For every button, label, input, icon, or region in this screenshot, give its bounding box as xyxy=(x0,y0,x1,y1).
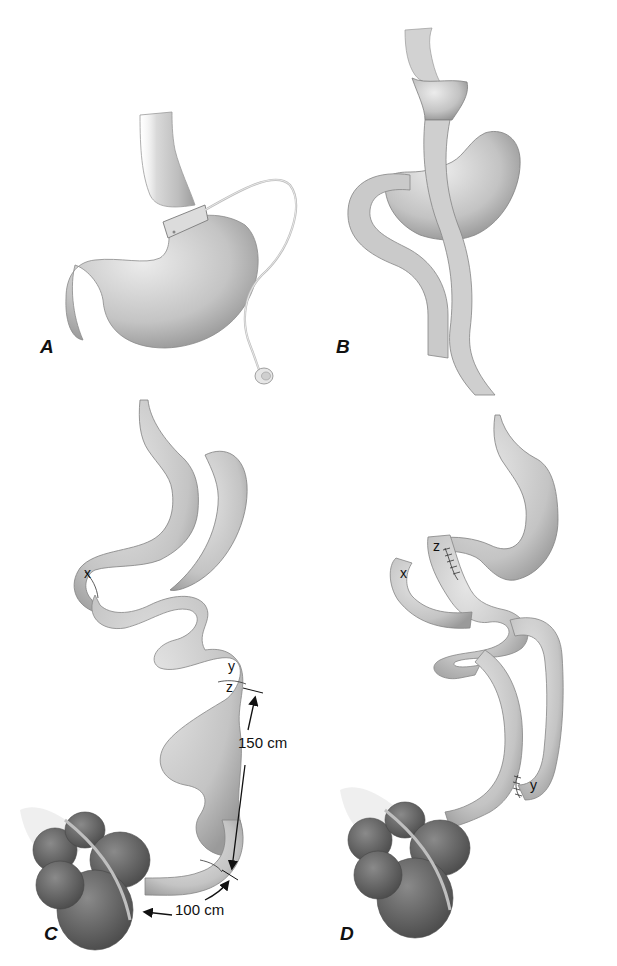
panel-c: x y z 150 cm 100 cm C xyxy=(0,400,310,966)
length-100cm: 100 cm xyxy=(175,902,224,917)
tick-top xyxy=(243,688,263,693)
arrow-150-up xyxy=(248,698,255,730)
panel-a: A xyxy=(0,0,310,400)
small-bowel xyxy=(92,595,243,856)
colon xyxy=(20,807,150,950)
panel-b: B xyxy=(300,0,617,400)
colon xyxy=(340,787,470,938)
gastric-sleeve xyxy=(74,400,198,612)
panel-label-c: C xyxy=(44,923,58,945)
arrow-100-left xyxy=(145,912,172,915)
panel-label-b: B xyxy=(336,336,350,358)
gastric-sleeve xyxy=(440,415,558,580)
gastric-pouch xyxy=(412,78,468,120)
label-y: y xyxy=(530,778,537,792)
panel-label-a: A xyxy=(40,336,54,358)
esophagus xyxy=(405,28,440,83)
label-x: x xyxy=(84,566,91,580)
duodenal-switch-illustration xyxy=(300,400,617,966)
label-z: z xyxy=(226,680,233,694)
common-channel xyxy=(145,820,243,895)
biliopancreatic-diversion-illustration xyxy=(0,400,310,966)
length-150cm: 150 cm xyxy=(238,735,287,750)
access-port xyxy=(255,368,273,384)
panel-label-d: D xyxy=(340,923,354,945)
label-z: z xyxy=(433,539,440,553)
label-y: y xyxy=(228,659,235,673)
label-x: x xyxy=(400,566,407,580)
stomach xyxy=(66,215,258,348)
panel-d: z x y D xyxy=(300,400,617,966)
esophagus xyxy=(140,112,195,207)
